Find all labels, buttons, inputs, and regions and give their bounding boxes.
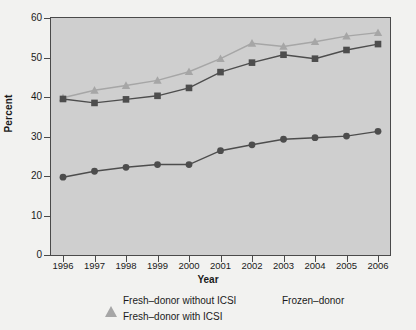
circle-icon [264,295,275,306]
series-line [63,131,378,177]
series-line [63,33,378,98]
y-tick-label: 50 [12,53,42,63]
data-point-marker [375,128,382,135]
legend-label: Frozen–donor [282,295,344,306]
legend-label: Fresh–donor without ICSI [123,295,236,306]
data-point-marker [91,100,98,107]
chart-figure: Percent 0102030405060 199619971998199920… [0,0,416,330]
legend-item-frozen-donor[interactable]: Frozen–donor [264,295,344,306]
data-point-marker [248,39,256,47]
legend-label: Fresh–donor with ICSI [123,311,223,322]
series-0 [59,28,382,101]
series-canvas [51,18,390,255]
data-point-marker [216,54,224,62]
data-point-marker [375,41,382,48]
data-point-marker [312,55,319,62]
y-tick-label: 40 [12,92,42,102]
data-point-marker [374,28,382,36]
data-point-marker [343,47,350,54]
data-point-marker [186,85,193,92]
y-tick-label: 10 [12,211,42,221]
chart-legend: Fresh–donor without ICSI Fresh–donor wit… [0,294,416,328]
data-point-marker [60,96,67,103]
legend-item-fresh-donor-without-icsi[interactable]: Fresh–donor without ICSI [105,295,236,306]
data-point-marker [91,168,98,175]
data-point-marker [249,59,256,66]
data-point-marker [186,161,193,168]
y-tick-label: 30 [12,132,42,142]
x-tick-mark [284,256,285,262]
data-point-marker [123,96,130,103]
data-point-marker [60,174,67,181]
x-tick-mark [252,256,253,262]
data-point-marker [343,133,350,140]
data-point-marker [280,136,287,143]
data-point-marker [123,164,130,171]
data-point-marker [154,93,161,100]
square-icon [105,311,116,322]
x-tick-mark [95,256,96,262]
triangle-icon [105,295,116,306]
x-tick-mark [378,256,379,262]
x-axis-title: Year [0,274,416,285]
x-tick-mark [347,256,348,262]
data-point-marker [312,134,319,141]
series-1 [60,41,382,106]
x-tick-mark [158,256,159,262]
x-tick-mark [315,256,316,262]
x-tick-mark [63,256,64,262]
series-2 [60,128,382,181]
y-tick-label: 20 [12,171,42,181]
data-point-marker [217,69,224,76]
x-tick-mark [221,256,222,262]
data-point-marker [249,141,256,148]
y-tick-label: 0 [12,250,42,260]
data-point-marker [154,161,161,168]
x-tick-mark [189,256,190,262]
x-tick-mark [126,256,127,262]
legend-item-fresh-donor-with-icsi[interactable]: Fresh–donor with ICSI [105,311,223,322]
y-tick-label: 60 [12,13,42,23]
data-point-marker [217,147,224,154]
data-point-marker [185,68,193,76]
data-point-marker [280,51,287,58]
plot-area [50,17,391,256]
